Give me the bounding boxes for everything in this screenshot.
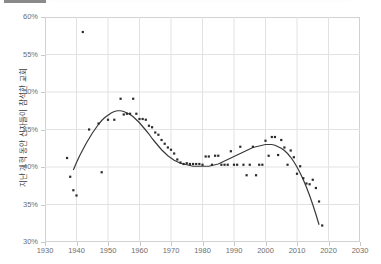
- scatter-point: [126, 113, 128, 115]
- scatter-point: [145, 119, 147, 121]
- scatter-point: [223, 164, 225, 166]
- scatter-point: [283, 146, 285, 148]
- scatter-point: [154, 131, 156, 133]
- scatter-point: [264, 140, 266, 142]
- scatter-point: [151, 126, 153, 128]
- scatter-point: [66, 157, 68, 159]
- scatter-point: [97, 122, 99, 124]
- scatter-point: [138, 118, 140, 120]
- scatter-point: [120, 98, 122, 100]
- scatter-point: [101, 171, 103, 173]
- scatter-point: [173, 152, 175, 154]
- scatter-point: [230, 150, 232, 152]
- scatter-point: [296, 173, 298, 175]
- scatter-point: [227, 164, 229, 166]
- scatter-point: [129, 113, 131, 115]
- scatter-point: [123, 113, 125, 115]
- scatter-point: [321, 224, 323, 226]
- scatter-point: [148, 125, 150, 127]
- scatter-points: [66, 31, 323, 227]
- scatter-point: [299, 165, 301, 167]
- scatter-point: [142, 118, 144, 120]
- scatter-point: [258, 164, 260, 166]
- scatter-point: [176, 158, 178, 160]
- chart-page: 지난 개혁 동안 신자들이 참석한 교회 30%35%40%45%50%55%6…: [0, 0, 381, 264]
- scatter-point: [107, 119, 109, 121]
- scatter-point: [271, 136, 273, 138]
- scatter-point: [82, 31, 84, 33]
- scatter-point: [164, 143, 166, 145]
- scatter-point: [239, 146, 241, 148]
- scatter-point: [236, 164, 238, 166]
- scatter-point: [167, 146, 169, 148]
- scatter-point: [201, 164, 203, 166]
- scatter-point: [274, 136, 276, 138]
- scatter-point: [290, 149, 292, 151]
- scatter-point: [160, 139, 162, 141]
- gridlines: [45, 17, 360, 242]
- scatter-point: [211, 164, 213, 166]
- scatter-point: [280, 139, 282, 141]
- scatter-point: [302, 177, 304, 179]
- scatter-point: [208, 155, 210, 157]
- scatter-point: [217, 155, 219, 157]
- scatter-point: [286, 164, 288, 166]
- scatter-point: [315, 187, 317, 189]
- scatter-point: [220, 164, 222, 166]
- scatter-point: [195, 163, 197, 165]
- chart-canvas: [0, 0, 381, 264]
- scatter-point: [246, 174, 248, 176]
- scatter-point: [309, 183, 311, 185]
- scatter-point: [192, 163, 194, 165]
- scatter-point: [249, 164, 251, 166]
- scatter-point: [170, 149, 172, 151]
- scatter-point: [268, 155, 270, 157]
- scatter-point: [205, 155, 207, 157]
- scatter-point: [255, 174, 257, 176]
- scatter-point: [186, 162, 188, 164]
- scatter-point: [189, 163, 191, 165]
- scatter-point: [312, 179, 314, 181]
- scatter-point: [88, 128, 90, 130]
- scatter-point: [318, 200, 320, 202]
- scatter-point: [252, 146, 254, 148]
- scatter-point: [242, 164, 244, 166]
- scatter-point: [305, 182, 307, 184]
- scatter-point: [72, 189, 74, 191]
- scatter-point: [75, 194, 77, 196]
- trend-line: [73, 111, 319, 225]
- scatter-point: [113, 119, 115, 121]
- scatter-point: [198, 163, 200, 165]
- scatter-point: [261, 164, 263, 166]
- scatter-point: [183, 163, 185, 165]
- scatter-point: [179, 161, 181, 163]
- scatter-point: [214, 155, 216, 157]
- scatter-point: [233, 164, 235, 166]
- scatter-point: [277, 154, 279, 156]
- scatter-point: [157, 134, 159, 136]
- scatter-point: [293, 156, 295, 158]
- scatter-point: [132, 98, 134, 100]
- scatter-point: [135, 113, 137, 115]
- scatter-point: [69, 176, 71, 178]
